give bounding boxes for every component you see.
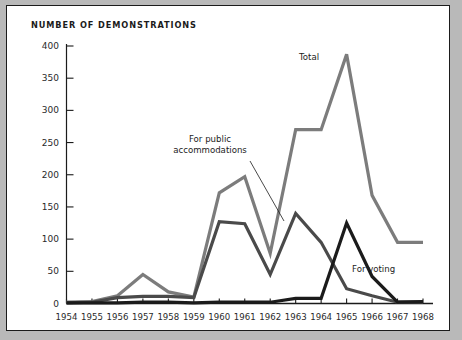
x-tick-label: 1960	[208, 312, 230, 322]
x-tick-label: 1956	[106, 312, 128, 322]
y-tick-label: 100	[29, 234, 59, 244]
series-line-for-public-accommodations	[67, 213, 424, 302]
x-tick-label: 1954	[56, 312, 78, 322]
x-tick-label: 1964	[310, 312, 332, 322]
y-tick-label: 150	[29, 202, 59, 212]
series-label-public-accommodations-line2: accommodations	[173, 145, 247, 156]
x-tick-label: 1966	[361, 312, 383, 322]
series-label-public-accommodations-line1: For public	[173, 134, 247, 145]
y-tick-label: 250	[29, 138, 59, 148]
x-tick-label: 1961	[234, 312, 256, 322]
series-label-public-accommodations: For public accommodations	[173, 134, 247, 156]
series-label-voting: For voting	[352, 264, 395, 275]
x-tick-label: 1958	[157, 312, 179, 322]
series-label-total: Total	[299, 52, 319, 63]
y-tick-label: 0	[29, 299, 59, 309]
y-tick-label: 400	[29, 41, 59, 51]
figure-panel: NUMBER OF DEMONSTRATIONS 050100150200250…	[6, 5, 450, 331]
x-tick-label: 1967	[387, 312, 409, 322]
series-line-for-voting	[67, 223, 424, 303]
y-tick-label: 200	[29, 170, 59, 180]
x-tick-label: 1959	[183, 312, 205, 322]
x-tick-label: 1965	[336, 312, 358, 322]
x-tick-label: 1955	[81, 312, 103, 322]
y-tick-label: 50	[29, 266, 59, 276]
y-tick-label: 350	[29, 73, 59, 83]
line-chart-svg	[7, 6, 451, 332]
x-tick-label: 1962	[259, 312, 281, 322]
chart-plot-area	[7, 6, 451, 332]
y-tick-label: 300	[29, 105, 59, 115]
x-tick-label: 1968	[412, 312, 434, 322]
x-tick-label: 1957	[132, 312, 154, 322]
x-tick-label: 1963	[285, 312, 307, 322]
